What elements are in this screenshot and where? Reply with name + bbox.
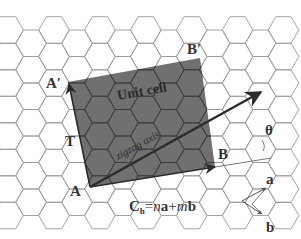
hexagon-cell: [85, 17, 116, 44]
hexagon-cell: [39, 176, 70, 203]
hexagon-cell: [0, 176, 23, 203]
hexagon-cell: [222, 176, 253, 203]
hexagon-cell: [176, 17, 207, 44]
hexagon-cell: [85, 202, 116, 229]
hexagon-cell: [0, 43, 23, 70]
hexagon-cell: [16, 136, 47, 163]
chiral-vector-diagram: A B A′ B′ T θ a b Unit cell zigzag axis …: [0, 0, 301, 239]
hexagon-cell: [16, 189, 47, 216]
hexagon-cell: [16, 163, 47, 190]
hexagon-cell: [0, 176, 23, 203]
hexagon-cell: [85, 17, 116, 44]
basis-vector-a-arrow-2: [252, 188, 266, 204]
hexagon-cell: [199, 30, 230, 57]
chiral-plus: +: [168, 198, 176, 214]
honeycomb-lattice-in-cell: [0, 17, 299, 229]
hexagon-cell: [222, 70, 253, 97]
hexagon-cell: [131, 17, 162, 44]
hexagon-cell: [245, 83, 276, 110]
hexagon-cell: [245, 30, 276, 57]
hexagon-cell: [0, 149, 23, 176]
hexagon-cell: [0, 202, 23, 229]
theta-angle-arc: [262, 140, 264, 151]
hexagon-cell: [222, 202, 253, 229]
hexagon-cell: [0, 17, 23, 44]
hexagon-cell: [0, 96, 23, 123]
hexagon-cell: [222, 202, 253, 229]
hexagon-cell: [16, 136, 47, 163]
hexagon-cell: [85, 202, 116, 229]
hexagon-cell: [39, 202, 70, 229]
hexagon-cell: [108, 30, 139, 57]
hexagon-cell: [16, 189, 47, 216]
hexagon-cell: [16, 30, 47, 57]
hexagon-cell: [39, 17, 70, 44]
hexagon-cell: [39, 96, 70, 123]
hexagon-cell: [39, 176, 70, 203]
hexagon-cell: [245, 30, 276, 57]
point-B-label: B: [218, 146, 228, 162]
hexagon-cell: [108, 30, 139, 57]
hexagon-cell: [268, 70, 299, 97]
chiral-m: m: [177, 198, 188, 214]
hexagon-cell: [268, 43, 299, 70]
hexagon-cell: [222, 17, 253, 44]
hexagon-cell: [16, 110, 47, 137]
hexagon-cell: [268, 96, 299, 123]
hexagon-cell: [131, 43, 162, 70]
hexagon-cell: [85, 43, 116, 70]
hexagon-cell: [222, 43, 253, 70]
hexagon-cell: [0, 43, 23, 70]
hexagon-cell: [0, 123, 23, 150]
hexagon-cell: [222, 17, 253, 44]
hexagon-cell: [39, 149, 70, 176]
hexagon-cell: [0, 70, 23, 97]
hexagon-cell: [153, 30, 184, 57]
hexagon-cell: [16, 30, 47, 57]
hexagon-cell: [245, 136, 276, 163]
hexagon-cell: [222, 176, 253, 203]
hexagon-cell: [39, 43, 70, 70]
hexagon-cell: [199, 189, 230, 216]
hexagon-cell: [39, 96, 70, 123]
hexagon-cell: [39, 202, 70, 229]
hexagon-cell: [0, 123, 23, 150]
hexagon-cell: [62, 30, 93, 57]
hexagon-cell: [222, 43, 253, 70]
hexagon-cell: [0, 96, 23, 123]
hexagon-cell: [0, 70, 23, 97]
hexagon-cell: [0, 202, 23, 229]
hexagon-cell: [245, 136, 276, 163]
hexagon-cell: [153, 30, 184, 57]
chiral-b: b: [188, 198, 196, 214]
diagram-canvas: A B A′ B′ T θ a b Unit cell zigzag axis …: [0, 0, 301, 239]
hexagon-cell: [131, 43, 162, 70]
hexagon-cell: [245, 189, 276, 216]
hexagon-cell: [16, 57, 47, 84]
hexagon-cell: [39, 17, 70, 44]
point-A-label: A: [70, 183, 81, 199]
point-A-prime-label: A′: [46, 75, 61, 91]
hexagon-cell: [268, 70, 299, 97]
hexagon-cell: [16, 57, 47, 84]
hexagon-cell: [16, 83, 47, 110]
hexagon-cell: [199, 189, 230, 216]
hexagon-cell: [16, 110, 47, 137]
chiral-C: C: [129, 198, 140, 214]
hexagon-cell: [245, 189, 276, 216]
basis-a-label: a: [266, 171, 274, 187]
hexagon-cell: [199, 57, 230, 84]
hexagon-cell: [16, 163, 47, 190]
hexagon-cell: [245, 57, 276, 84]
basis-vector-b-arrow: [242, 201, 262, 214]
vector-T-label: T: [65, 133, 75, 149]
hexagon-cell: [199, 57, 230, 84]
hexagon-cell: [199, 30, 230, 57]
hexagon-cell: [0, 17, 23, 44]
theta-label: θ: [265, 122, 273, 138]
hexagon-cell: [268, 96, 299, 123]
chiral-vector-equation: Ch=na+mb: [129, 198, 196, 216]
hexagon-cell: [268, 43, 299, 70]
hexagon-cell: [39, 43, 70, 70]
hexagon-cell: [0, 149, 23, 176]
